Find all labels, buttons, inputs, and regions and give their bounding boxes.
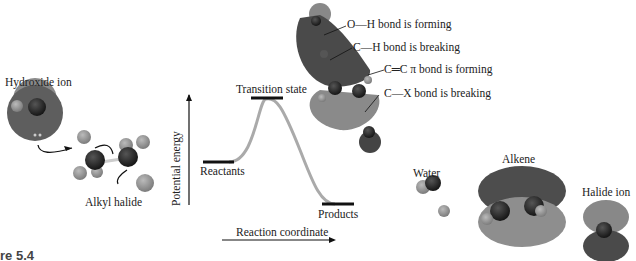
reaction-diagram-canvas [0,0,636,261]
x-axis-label: Reaction coordinate [236,226,328,238]
figure-caption: re 5.4 [0,248,34,261]
alkene-model [478,166,566,247]
cx-bond-breaking-label: C—X bond is breaking [384,87,491,99]
alkyl-halide-model [73,130,154,192]
alkyl-halide-label: Alkyl halide [85,196,142,208]
water-label: Water [413,167,440,179]
hydroxide-ion-label: Hydroxide ion [5,76,72,88]
ch-bond-breaking-label: C—H bond is breaking [353,41,460,53]
halide-ion-model [583,200,629,261]
water-model [416,175,450,217]
y-axis-label: Potential energy [170,131,182,206]
products-label: Products [318,208,358,220]
transition-state-label: Transition state [236,83,307,95]
reactants-label: Reactants [200,165,245,177]
halide-ion-label: Halide ion [582,186,630,198]
cc-pi-bond-forming-label: C═C π bond is forming [384,63,493,75]
alkene-label: Alkene [502,153,535,165]
oh-bond-forming-label: O—H bond is forming [347,18,451,30]
